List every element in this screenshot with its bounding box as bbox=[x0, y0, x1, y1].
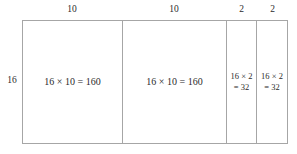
area-cell-col-3-text: 16 × 2 = 32 bbox=[231, 71, 253, 92]
area-cell-col-1-line-1: 16 × 10 = 160 bbox=[44, 76, 100, 89]
area-cell-col-3-line-2: = 32 bbox=[231, 82, 253, 93]
top-label-col-1-value: 10 bbox=[67, 4, 77, 14]
area-cell-col-4: 16 × 2 = 32 bbox=[257, 21, 287, 143]
top-label-col-3: 2 bbox=[226, 4, 257, 14]
area-cell-col-1-text: 16 × 10 = 160 bbox=[44, 76, 100, 89]
area-cell-col-2: 16 × 10 = 160 bbox=[123, 21, 227, 143]
top-label-col-1: 10 bbox=[22, 4, 122, 14]
top-label-col-2: 10 bbox=[122, 4, 226, 14]
area-cell-col-4-line-1: 16 × 2 bbox=[261, 71, 283, 82]
top-label-col-2-value: 10 bbox=[169, 4, 179, 14]
area-cell-col-2-line-1: 16 × 10 = 160 bbox=[146, 76, 202, 89]
side-label-height: 16 bbox=[4, 75, 20, 85]
area-cell-col-3: 16 × 2 = 32 bbox=[227, 21, 257, 143]
diagram-canvas: 10 10 2 2 16 16 × 10 = 160 16 × 10 = 160… bbox=[0, 0, 297, 154]
area-model-rectangle: 16 × 10 = 160 16 × 10 = 160 16 × 2 = 32 … bbox=[22, 20, 288, 144]
side-label-height-value: 16 bbox=[7, 75, 17, 85]
area-cell-col-4-line-2: = 32 bbox=[261, 82, 283, 93]
top-label-col-4-value: 2 bbox=[270, 4, 275, 14]
area-cell-col-4-text: 16 × 2 = 32 bbox=[261, 71, 283, 92]
top-label-col-4: 2 bbox=[257, 4, 288, 14]
area-cell-col-1: 16 × 10 = 160 bbox=[23, 21, 123, 143]
top-label-col-3-value: 2 bbox=[239, 4, 244, 14]
area-cell-col-2-text: 16 × 10 = 160 bbox=[146, 76, 202, 89]
area-cell-col-3-line-1: 16 × 2 bbox=[231, 71, 253, 82]
